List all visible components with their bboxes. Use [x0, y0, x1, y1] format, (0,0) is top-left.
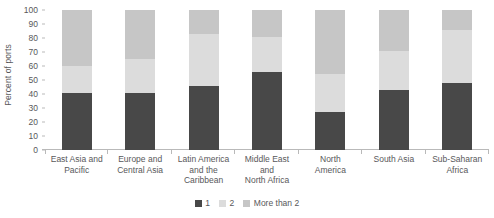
legend-label: 1 — [205, 198, 210, 208]
bar-segment[interactable] — [125, 10, 155, 59]
y-axis: 1009080706050403020100 — [16, 10, 42, 150]
bar-segment[interactable] — [379, 51, 409, 90]
bar-segment[interactable] — [125, 59, 155, 93]
bar-segment[interactable] — [252, 72, 282, 150]
x-axis-label: East Asia andPacific — [45, 154, 108, 186]
y-axis-title: Percent of ports — [0, 0, 16, 150]
stacked-bar[interactable] — [379, 10, 409, 150]
stacked-bar[interactable] — [125, 10, 155, 150]
bar-segment[interactable] — [315, 74, 345, 112]
bar-segment[interactable] — [62, 66, 92, 93]
x-axis-label: NorthAmerica — [299, 154, 362, 186]
bar-slot — [362, 10, 425, 150]
x-axis-label: South Asia — [362, 154, 425, 186]
bar-slot — [299, 10, 362, 150]
x-axis-label: Sub-SaharanAfrica — [426, 154, 489, 186]
y-axis-tick-label: 70 — [29, 47, 38, 57]
bar-segment[interactable] — [442, 83, 472, 150]
x-axis-label: Middle EastandNorth Africa — [235, 154, 298, 186]
x-axis-label: Latin Americaand theCaribbean — [172, 154, 235, 186]
stacked-bar[interactable] — [252, 10, 282, 150]
legend-item[interactable]: More than 2 — [243, 198, 299, 208]
bar-segment[interactable] — [379, 10, 409, 51]
legend-label: More than 2 — [254, 198, 299, 208]
y-axis-tick-label: 10 — [29, 131, 38, 141]
legend-item[interactable]: 2 — [219, 198, 234, 208]
bar-segment[interactable] — [189, 10, 219, 34]
stacked-bar[interactable] — [189, 10, 219, 150]
bar-segment[interactable] — [442, 10, 472, 30]
y-axis-tick-label: 80 — [29, 33, 38, 43]
bar-slot — [45, 10, 108, 150]
y-axis-tick-label: 60 — [29, 61, 38, 71]
bar-slot — [172, 10, 235, 150]
stacked-bar[interactable] — [442, 10, 472, 150]
bar-segment[interactable] — [252, 37, 282, 72]
stacked-bar-chart: Percent of ports 1009080706050403020100 … — [0, 0, 494, 218]
legend-swatch-icon — [243, 200, 250, 207]
y-axis-tick-label: 100 — [24, 5, 38, 15]
bar-segment[interactable] — [125, 93, 155, 150]
bar-slot — [426, 10, 489, 150]
stacked-bar[interactable] — [315, 10, 345, 150]
y-axis-tick-label: 90 — [29, 19, 38, 29]
y-axis-title-text: Percent of ports — [3, 44, 13, 106]
bar-segment[interactable] — [62, 93, 92, 150]
x-axis-labels: East Asia andPacificEurope andCentral As… — [45, 154, 489, 186]
bars-container — [45, 10, 489, 150]
bar-segment[interactable] — [252, 10, 282, 37]
y-axis-tick-label: 20 — [29, 117, 38, 127]
bar-segment[interactable] — [189, 34, 219, 86]
bar-slot — [108, 10, 171, 150]
bar-slot — [235, 10, 298, 150]
bar-segment[interactable] — [379, 90, 409, 150]
y-axis-tick-label: 0 — [33, 145, 38, 155]
y-axis-tick-label: 40 — [29, 89, 38, 99]
legend-label: 2 — [230, 198, 235, 208]
y-axis-tick-label: 30 — [29, 103, 38, 113]
plot-area — [45, 10, 489, 150]
bar-segment[interactable] — [62, 10, 92, 66]
y-axis-tick-label: 50 — [29, 75, 38, 85]
legend-swatch-icon — [195, 200, 202, 207]
chart-legend: 12More than 2 — [0, 198, 494, 208]
legend-item[interactable]: 1 — [195, 198, 210, 208]
bar-segment[interactable] — [315, 10, 345, 74]
x-axis-label: Europe andCentral Asia — [108, 154, 171, 186]
stacked-bar[interactable] — [62, 10, 92, 150]
bar-segment[interactable] — [189, 86, 219, 150]
legend-swatch-icon — [219, 200, 226, 207]
bar-segment[interactable] — [315, 112, 345, 150]
bar-segment[interactable] — [442, 30, 472, 83]
